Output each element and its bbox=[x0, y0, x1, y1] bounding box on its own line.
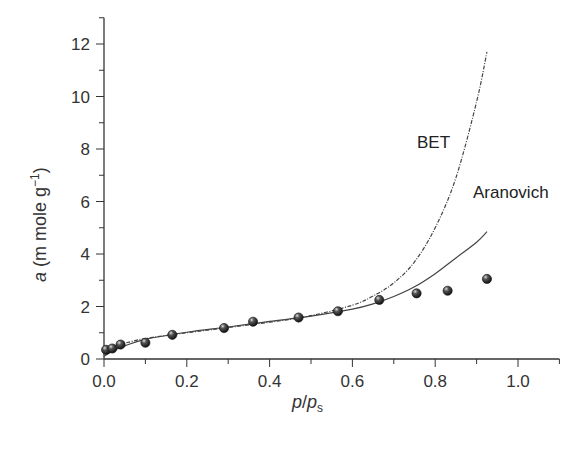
x-tick-label: 0.2 bbox=[175, 372, 199, 391]
y-axis-title: a (m mole g−1) bbox=[28, 167, 50, 282]
data-point bbox=[333, 307, 342, 316]
aranovich-curve bbox=[104, 232, 487, 357]
y-tick-label: 10 bbox=[71, 88, 90, 107]
y-axis-sup: −1 bbox=[28, 173, 42, 187]
x-axis-title: p/ps bbox=[291, 392, 323, 415]
chart-figure: 0.00.20.40.60.81.0024681012 BET Aranovic… bbox=[0, 0, 586, 449]
data-point bbox=[412, 289, 421, 298]
data-point bbox=[141, 338, 150, 347]
data-point bbox=[443, 286, 452, 295]
y-tick-label: 12 bbox=[71, 35, 90, 54]
y-tick-label: 0 bbox=[81, 350, 90, 369]
bet-curve bbox=[104, 52, 487, 351]
data-point bbox=[375, 295, 384, 304]
y-tick-label: 2 bbox=[81, 298, 90, 317]
data-point bbox=[294, 313, 303, 322]
x-tick-label: 0.0 bbox=[92, 372, 116, 391]
aranovich-label: Aranovich bbox=[473, 183, 549, 202]
x-axis-ps: p bbox=[306, 392, 317, 412]
x-axis-sub: s bbox=[317, 401, 323, 415]
x-tick-label: 0.8 bbox=[423, 372, 447, 391]
data-point bbox=[168, 330, 177, 339]
y-axis-a: a bbox=[30, 272, 50, 282]
bet-label: BET bbox=[417, 133, 450, 152]
data-point bbox=[219, 323, 228, 332]
x-tick-label: 0.6 bbox=[341, 372, 365, 391]
data-point bbox=[482, 274, 491, 283]
x-axis-p: p bbox=[291, 392, 302, 412]
data-point bbox=[108, 344, 117, 353]
y-tick-label: 8 bbox=[81, 140, 90, 159]
y-tick-label: 4 bbox=[81, 245, 90, 264]
tick-labels: 0.00.20.40.60.81.0024681012 bbox=[71, 35, 530, 391]
data-points bbox=[101, 274, 491, 354]
y-tick-label: 6 bbox=[81, 193, 90, 212]
y-axis-close: ) bbox=[30, 167, 50, 173]
y-axis-units: (m mole g bbox=[30, 187, 50, 272]
x-tick-label: 0.4 bbox=[258, 372, 282, 391]
data-point bbox=[248, 317, 257, 326]
x-tick-label: 1.0 bbox=[506, 372, 530, 391]
data-point bbox=[116, 340, 125, 349]
series-lines bbox=[104, 52, 487, 357]
